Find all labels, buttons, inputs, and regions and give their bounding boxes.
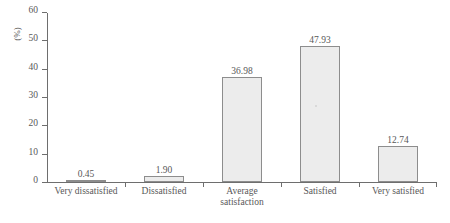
y-axis-tick-label: 40: [29, 62, 39, 72]
bar-value-label: 36.98: [231, 66, 252, 76]
y-axis-tick: 20: [42, 125, 47, 126]
y-axis-tick-label: 60: [29, 5, 39, 15]
bar-average-satisfaction: 36.98 Average satisfaction: [222, 77, 262, 182]
x-axis-line: [47, 182, 437, 183]
x-axis-category-label-line1: Very dissatisfied: [54, 186, 117, 196]
x-axis-category-label-line1: Dissatisfied: [142, 186, 187, 196]
y-axis-line: [47, 13, 48, 183]
x-axis-category-label: Average satisfaction: [220, 186, 263, 208]
x-axis-category-label: Very dissatisfied: [54, 186, 117, 197]
y-axis-tick-label: 10: [29, 147, 39, 157]
bar-chart-figure: (%) 0 10 20 30 40 50 60 0.45 Very dissat…: [0, 0, 450, 223]
bar-very-satisfied: 12.74 Very satisfied: [378, 146, 418, 182]
bar-dissatisfied: 1.90 Dissatisfied: [144, 176, 184, 182]
x-axis-category-label: Dissatisfied: [142, 186, 187, 197]
bar-very-dissatisfied: 0.45 Very dissatisfied: [66, 180, 106, 182]
x-axis-category-label-line2: satisfaction: [220, 197, 263, 208]
y-axis-tick-label: 0: [33, 175, 38, 185]
y-axis-tick-label: 50: [29, 33, 39, 43]
y-axis-tick: 30: [42, 97, 47, 98]
plot-area: 0 10 20 30 40 50 60 0.45 Very dissatisfi…: [47, 13, 437, 183]
x-axis-category-label-line1: Average: [226, 186, 257, 196]
scan-speck: [315, 105, 317, 107]
y-axis-tick: 0: [42, 182, 47, 183]
bar-value-label: 1.90: [156, 165, 173, 175]
x-axis-category-label-line1: Satisfied: [303, 186, 336, 196]
y-axis-tick: 50: [42, 40, 47, 41]
x-axis-category-label-line1: Very satisfied: [372, 186, 424, 196]
y-axis-tick: 40: [42, 69, 47, 70]
x-axis-tick: [281, 183, 282, 187]
y-axis-tick: 60: [42, 12, 47, 13]
x-axis-category-label: Very satisfied: [372, 186, 424, 197]
x-axis-tick: [203, 183, 204, 187]
x-axis-tick: [359, 183, 360, 187]
y-axis-tick-label: 20: [29, 118, 39, 128]
y-axis-tick-label: 30: [29, 90, 39, 100]
x-axis-tick: [436, 183, 437, 187]
bar-satisfied: 47.93 Satisfied: [300, 46, 340, 182]
y-axis-tick: 10: [42, 154, 47, 155]
x-axis-tick: [125, 183, 126, 187]
x-axis-category-label: Satisfied: [303, 186, 336, 197]
bar-value-label: 0.45: [78, 169, 95, 179]
bar-value-label: 47.93: [309, 35, 330, 45]
bar-value-label: 12.74: [387, 135, 408, 145]
